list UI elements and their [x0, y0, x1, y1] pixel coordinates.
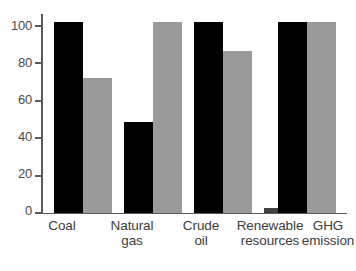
x-axis-label-ghg-emission: GHG emission: [300, 218, 356, 248]
y-axis-label-0: 0: [2, 204, 32, 217]
x-axis-label-coal: Coal: [26, 218, 98, 233]
x-axis-label-crude-oil-line-1: Crude: [166, 218, 236, 233]
y-axis-label-100: 100: [2, 19, 32, 32]
bar-coal-series-2: [83, 78, 112, 213]
x-axis-label-ghg-emission-line-1: GHG: [300, 218, 356, 233]
bar-crude-oil-series-2: [223, 51, 252, 213]
bars-layer: [42, 13, 347, 213]
bar-ghg-emission-series-2: [307, 22, 336, 213]
bar-chart: 100 80 60 40 20 0 Coal Natural gas Cru: [0, 0, 356, 271]
x-axis-label-crude-oil: Crude oil: [166, 218, 236, 248]
x-axis-label-coal-line-1: Coal: [26, 218, 98, 233]
bar-coal-series-1: [54, 22, 83, 213]
bar-crude-oil-series-1: [194, 22, 223, 213]
x-axis-label-natural-gas: Natural gas: [94, 218, 170, 248]
x-axis-label-natural-gas-line-1: Natural: [94, 218, 170, 233]
bar-natural-gas-series-1: [124, 122, 153, 213]
y-axis-label-40: 40: [2, 130, 32, 143]
x-axis-label-natural-gas-line-2: gas: [94, 233, 170, 248]
bar-ghg-emission-series-1: [278, 22, 307, 213]
y-axis-label-20: 20: [2, 167, 32, 180]
bar-natural-gas-series-2: [153, 22, 182, 213]
y-axis-label-80: 80: [2, 56, 32, 69]
x-axis-label-crude-oil-line-2: oil: [166, 233, 236, 248]
x-axis-label-ghg-emission-line-2: emission: [300, 233, 356, 248]
y-axis-label-60: 60: [2, 93, 32, 106]
